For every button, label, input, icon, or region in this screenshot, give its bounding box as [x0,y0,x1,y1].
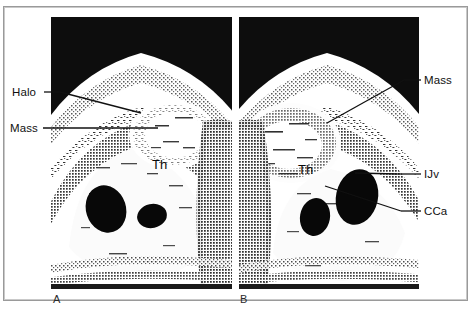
panel-letter-a: A [53,293,61,305]
tissue-label-thyroid-a: Th [152,157,167,172]
tissue-label-thyroid-b: Th [298,162,313,177]
annotation-label-halo: Halo [12,86,36,98]
annotation-label-ijv: IJv [424,168,439,180]
scan-panel-a [51,17,232,289]
scan-a-content [51,17,232,289]
figure-root: Halo Mass Mass IJv CCa Th Th A B [0,0,472,318]
scan-a-graphic [51,17,232,289]
caption-sliver [232,309,470,317]
scan-b-graphic [239,17,419,289]
annotation-label-cca: CCa [424,205,447,217]
scan-b-content [239,17,419,289]
panel-letter-b: B [240,293,248,305]
scan-panel-b [239,17,419,289]
annotation-label-mass-right: Mass [424,74,452,86]
annotation-label-mass-left: Mass [10,122,38,134]
